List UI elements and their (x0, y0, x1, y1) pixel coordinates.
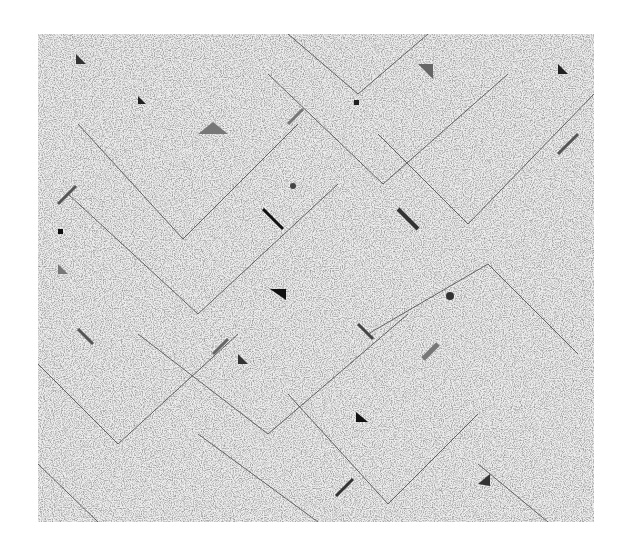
scattered-shape (58, 229, 63, 234)
abstract-texture (38, 34, 594, 522)
scattered-shape (354, 100, 359, 105)
scattered-shape (446, 292, 454, 300)
scattered-shape (290, 183, 296, 189)
noise-layer (38, 34, 594, 522)
noise-texture-panel (38, 34, 594, 522)
